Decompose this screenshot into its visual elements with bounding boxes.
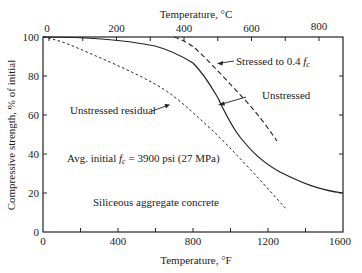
x2-axis-title: Temperature, °C bbox=[160, 8, 233, 20]
fc-subscript: c bbox=[306, 60, 310, 69]
x-axis-title: Temperature, °F bbox=[160, 254, 231, 266]
annotation-stressed: Stressed to 0.4 fc bbox=[217, 55, 310, 69]
x2-tick-label: 200 bbox=[108, 22, 125, 34]
x2-tick-label: 600 bbox=[243, 22, 260, 34]
y-tick-label: 100 bbox=[23, 31, 40, 43]
y-tick-label: 40 bbox=[28, 148, 40, 160]
y-tick-label: 60 bbox=[28, 109, 40, 121]
x-axis-tick-labels: 0 400 800 1200 1600 bbox=[40, 235, 351, 247]
y-tick-label: 0 bbox=[34, 226, 40, 238]
annotation-unstressed-residual: Unstressed residual bbox=[70, 104, 170, 116]
svg-text:Stressed to 0.4 fc: Stressed to 0.4 fc bbox=[236, 55, 310, 69]
chart: 0 400 800 1200 1600 Temperature, °F 0 20… bbox=[0, 0, 362, 273]
y-tick-label: 20 bbox=[28, 187, 40, 199]
avg-initial-fc-note: Avg. initial fc = 3900 psi (27 MPa) bbox=[67, 152, 220, 166]
x2-tick-label: 0 bbox=[44, 22, 50, 34]
x-axis-ticks bbox=[81, 228, 306, 232]
siliceous-aggregate-note: Siliceous aggregate concrete bbox=[93, 196, 219, 208]
avg-suffix: = 3900 psi (27 MPa) bbox=[126, 152, 220, 165]
y-axis-title: Compressive strength, % of initial bbox=[5, 60, 17, 211]
avg-prefix: Avg. initial bbox=[67, 152, 119, 164]
unstressed-label: Unstressed bbox=[262, 89, 311, 101]
y-axis-tick-labels: 0 20 40 60 80 100 bbox=[23, 31, 40, 238]
x-tick-label: 1600 bbox=[329, 235, 352, 247]
x-tick-label: 800 bbox=[185, 235, 202, 247]
x-tick-label: 1200 bbox=[257, 235, 280, 247]
x2-axis-tick-labels: 0 200 400 600 800 bbox=[44, 20, 328, 34]
stressed-label: Stressed to 0.4 bbox=[236, 55, 303, 67]
x-tick-label: 400 bbox=[110, 235, 127, 247]
x2-tick-label: 800 bbox=[311, 20, 328, 32]
unstressed-residual-label: Unstressed residual bbox=[70, 104, 156, 116]
annotation-unstressed: Unstressed bbox=[218, 89, 311, 106]
y-tick-label: 80 bbox=[28, 70, 40, 82]
x-tick-label: 0 bbox=[40, 235, 46, 247]
x2-tick-label: 400 bbox=[176, 22, 193, 34]
